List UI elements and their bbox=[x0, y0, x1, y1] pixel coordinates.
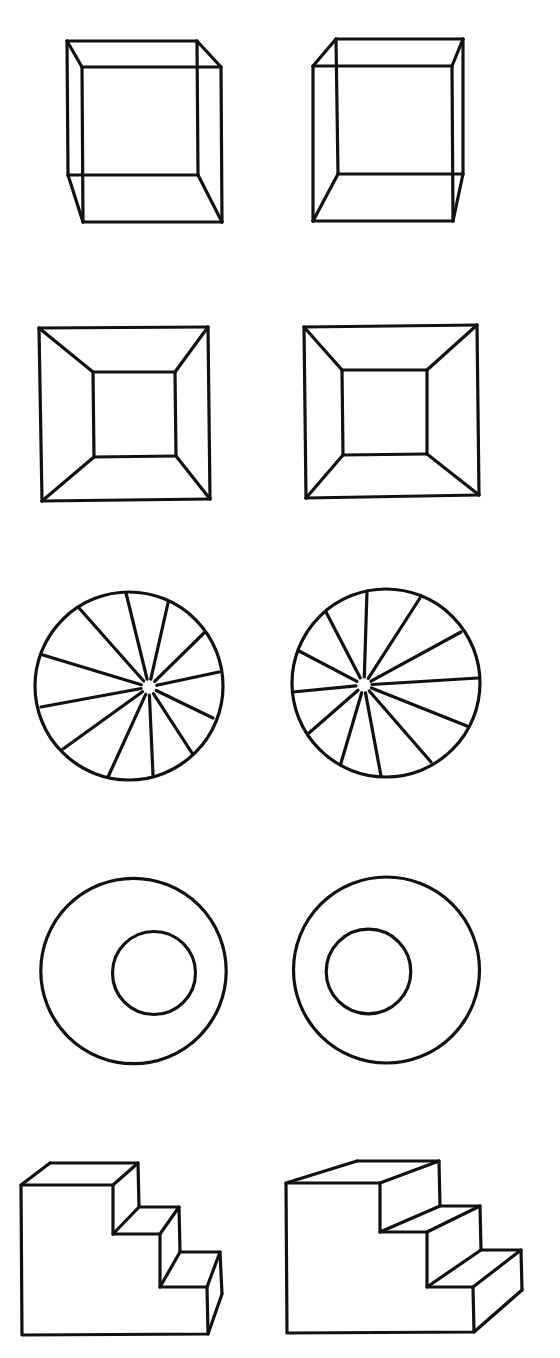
spoke-line bbox=[368, 598, 420, 678]
spoke-line bbox=[293, 686, 356, 692]
spoked-wheel-right bbox=[292, 589, 480, 777]
edge-line bbox=[42, 499, 210, 501]
circle-outline bbox=[35, 592, 223, 780]
edge-line bbox=[313, 39, 336, 66]
concentric-ring-left bbox=[41, 878, 226, 1063]
spoke-line bbox=[149, 695, 153, 775]
edge-line bbox=[304, 327, 306, 498]
edge-line bbox=[160, 1252, 180, 1287]
edge-line bbox=[113, 1207, 139, 1234]
edge-line bbox=[452, 39, 463, 66]
edge-line bbox=[342, 370, 343, 455]
staircase-left bbox=[21, 1163, 222, 1335]
edge-line bbox=[82, 67, 83, 222]
edge-line bbox=[208, 1294, 222, 1334]
spoked-wheel-pair bbox=[35, 589, 480, 780]
edge-line bbox=[39, 328, 42, 501]
edge-line bbox=[380, 1206, 440, 1232]
edge-line bbox=[113, 1163, 138, 1185]
circle-outline bbox=[326, 929, 411, 1014]
spoke-line bbox=[151, 603, 168, 679]
circle-outline bbox=[41, 878, 226, 1063]
edge-line bbox=[343, 454, 427, 455]
edge-line bbox=[221, 67, 222, 222]
edge-line bbox=[452, 66, 453, 221]
outline-path bbox=[50, 1163, 222, 1294]
edge-line bbox=[304, 325, 477, 327]
circle-outline bbox=[113, 932, 196, 1015]
edge-line bbox=[306, 495, 479, 498]
edge-line bbox=[39, 327, 208, 328]
edge-line bbox=[208, 327, 210, 499]
edge-line bbox=[313, 174, 338, 221]
spoke-line bbox=[153, 694, 192, 753]
wire-cube-pair bbox=[67, 39, 463, 222]
staircase-pair bbox=[21, 1161, 522, 1335]
edge-line bbox=[21, 1163, 50, 1185]
figure-canvas bbox=[0, 0, 560, 1358]
edge-line bbox=[68, 175, 83, 222]
edge-line bbox=[477, 325, 479, 495]
edge-line bbox=[175, 327, 208, 372]
edge-line bbox=[304, 327, 342, 370]
edge-line bbox=[286, 1161, 357, 1183]
edge-line bbox=[197, 41, 221, 67]
edge-line bbox=[67, 41, 68, 175]
frustum-right bbox=[304, 325, 479, 498]
edge-line bbox=[175, 372, 176, 456]
edge-line bbox=[427, 325, 477, 370]
edge-line bbox=[473, 1250, 521, 1287]
edge-line bbox=[453, 174, 463, 221]
spoke-line bbox=[108, 694, 146, 777]
edge-line bbox=[160, 1207, 179, 1234]
stereo-figure-sheet bbox=[0, 0, 560, 1358]
frustum-left bbox=[39, 327, 210, 501]
spoke-line bbox=[371, 632, 461, 681]
edge-line bbox=[94, 456, 176, 457]
edge-line bbox=[176, 456, 210, 499]
spoke-line bbox=[366, 693, 382, 776]
edge-line bbox=[197, 41, 198, 175]
edge-line bbox=[93, 372, 94, 457]
edge-line bbox=[198, 175, 222, 222]
concentric-ring-right bbox=[294, 877, 480, 1063]
edge-line bbox=[427, 1250, 481, 1287]
frustum-pair bbox=[39, 325, 479, 501]
wire-cube-left bbox=[67, 41, 222, 222]
spoke-line bbox=[364, 591, 367, 677]
circle-outline bbox=[294, 877, 480, 1063]
spoke-line bbox=[157, 672, 219, 685]
spoke-line bbox=[369, 691, 431, 762]
spoke-line bbox=[371, 688, 467, 726]
spoked-wheel-left bbox=[35, 592, 223, 780]
spoke-line bbox=[372, 678, 478, 685]
edge-line bbox=[207, 1252, 220, 1287]
edge-line bbox=[39, 328, 93, 372]
spoke-line bbox=[155, 633, 204, 681]
concentric-ring-pair bbox=[41, 877, 480, 1064]
staircase-right bbox=[286, 1161, 522, 1333]
edge-line bbox=[42, 457, 94, 501]
edge-line bbox=[67, 41, 82, 67]
edge-line bbox=[306, 455, 343, 498]
edge-line bbox=[427, 454, 479, 495]
edge-line bbox=[336, 39, 338, 174]
edge-line bbox=[474, 1290, 522, 1332]
wire-cube-right bbox=[313, 39, 463, 221]
edge-line bbox=[380, 1161, 439, 1183]
